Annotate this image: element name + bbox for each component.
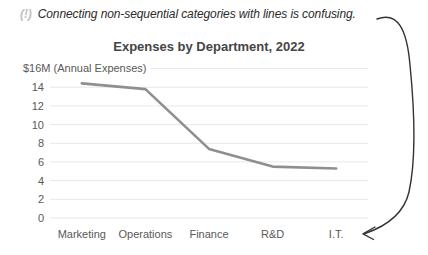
- y-axis-unit-label: $16M (Annual Expenses): [23, 62, 151, 74]
- x-category-label: Marketing: [58, 228, 106, 240]
- x-category-label: I.T.: [329, 228, 344, 240]
- y-tick-label: 0: [38, 212, 44, 224]
- chart-card: (!)Connecting non-sequential categories …: [0, 0, 428, 255]
- gridlines: [50, 69, 368, 219]
- x-category-label: R&D: [261, 228, 284, 240]
- annotation: (!)Connecting non-sequential categories …: [20, 7, 356, 21]
- chart-title: Expenses by Department, 2022: [0, 39, 418, 54]
- y-tick-label: 2: [38, 193, 44, 205]
- annotation-text: Connecting non-sequential categories wit…: [38, 7, 356, 21]
- y-tick-labels: 02468101214: [32, 81, 44, 224]
- y-tick-label: 6: [38, 156, 44, 168]
- y-tick-label: 8: [38, 137, 44, 149]
- x-category-label: Finance: [189, 228, 228, 240]
- y-tick-label: 10: [32, 119, 44, 131]
- warning-icon: (!): [20, 7, 32, 21]
- y-tick-label: 12: [32, 100, 44, 112]
- y-tick-label: 14: [32, 81, 44, 93]
- y-tick-label: 4: [38, 175, 44, 187]
- expenses-line-series: [82, 83, 336, 168]
- x-category-label: Operations: [118, 228, 172, 240]
- x-category-labels: MarketingOperationsFinanceR&DI.T.: [58, 228, 344, 240]
